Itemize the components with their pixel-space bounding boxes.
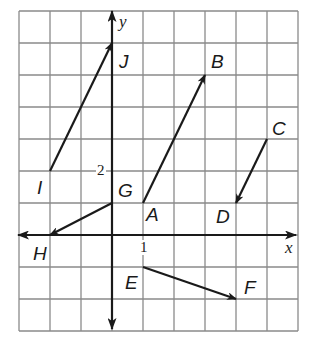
- point-label-a: A: [146, 205, 159, 224]
- vector-ef: [143, 267, 236, 299]
- point-label-e: E: [125, 273, 138, 292]
- point-label-c: C: [272, 119, 286, 138]
- point-label-j: J: [119, 52, 129, 71]
- tick-label-y-2: 2: [96, 163, 106, 178]
- point-label-i: I: [37, 178, 42, 197]
- point-label-g: G: [118, 181, 133, 200]
- point-label-d: D: [216, 207, 230, 226]
- x-axis-label: x: [285, 239, 293, 256]
- coordinate-plane: [0, 0, 312, 350]
- point-label-h: H: [33, 244, 47, 263]
- point-label-f: F: [244, 278, 256, 297]
- point-label-b: B: [211, 52, 224, 71]
- tick-label-x-1: 1: [139, 240, 149, 255]
- y-axis-label: y: [119, 13, 127, 30]
